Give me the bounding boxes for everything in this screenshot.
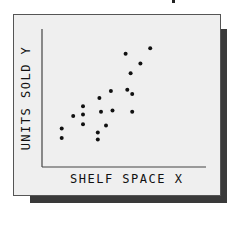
data-point <box>71 114 75 118</box>
data-point <box>81 113 85 117</box>
data-point <box>125 88 129 92</box>
data-point <box>60 136 64 140</box>
data-point <box>81 104 85 108</box>
data-points <box>60 46 153 141</box>
data-point <box>109 89 113 93</box>
data-point <box>138 62 142 66</box>
data-point <box>81 122 85 126</box>
data-point <box>104 124 108 128</box>
data-point <box>99 110 103 114</box>
data-point <box>97 96 101 100</box>
data-point <box>111 108 115 112</box>
data-point <box>96 137 100 141</box>
data-point <box>130 110 134 114</box>
data-point <box>124 52 128 56</box>
data-point <box>148 46 152 50</box>
y-axis-label: UNITS SOLD Y <box>19 46 33 151</box>
data-point <box>129 71 133 75</box>
data-point <box>60 126 64 130</box>
data-point <box>96 131 100 135</box>
x-axis-label: SHELF SPACE X <box>70 172 183 186</box>
data-point <box>130 92 134 96</box>
